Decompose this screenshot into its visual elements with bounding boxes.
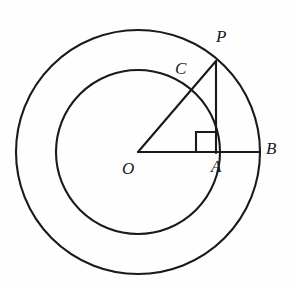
point-label-P: P [216,28,226,45]
point-label-O: O [122,160,134,177]
point-label-B: B [266,140,276,157]
point-label-A: A [211,158,221,175]
geometry-canvas [0,0,295,289]
point-label-C: C [175,60,186,77]
right-angle-marker [196,132,216,152]
geometry-figure: P C B A O [0,0,295,289]
